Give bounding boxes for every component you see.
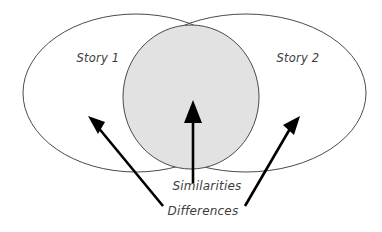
venn-diagram-figure: Story 1 Story 2 Similarities Differences	[0, 0, 382, 232]
differences-right-arrow	[245, 116, 300, 206]
left-set-label: Story 1	[77, 51, 120, 65]
differences-label: Differences	[168, 204, 239, 218]
right-set-label: Story 2	[277, 51, 320, 65]
intersection-region	[123, 25, 259, 169]
differences-right-arrow-head	[283, 116, 300, 135]
venn-diagram-canvas: Story 1 Story 2 Similarities Differences	[0, 0, 382, 232]
similarities-label: Similarities	[172, 179, 241, 193]
